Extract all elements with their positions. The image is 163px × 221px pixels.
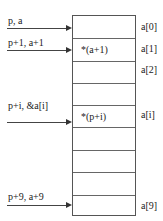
index-label-ai: a[i]	[141, 109, 155, 120]
array-cell-3	[73, 83, 135, 105]
array-cell-1: *(a+1)	[73, 38, 135, 61]
pointer-arrow-pi	[7, 122, 67, 123]
pointer-label-p9: p+9, a+9	[8, 191, 44, 202]
pointer-arrow-p1	[7, 50, 67, 51]
index-label-a0: a[0]	[141, 21, 157, 32]
pointer-label-p: p, a	[8, 15, 22, 26]
cell-content: *(a+1)	[81, 44, 108, 55]
pointer-arrow-p9	[7, 205, 67, 206]
array-cell-i: *(p+i)	[73, 105, 135, 127]
pointer-label-p1: p+1, a+1	[8, 37, 44, 48]
pointer-arrow-p	[7, 28, 67, 29]
index-label-a9: a[9]	[141, 200, 157, 211]
array-cell-7	[73, 172, 135, 195]
index-label-a1: a[1]	[141, 43, 157, 54]
cell-content: *(p+i)	[81, 111, 106, 122]
array-cell-0	[73, 16, 135, 38]
pointer-label-pi: p+i, &a[i]	[8, 100, 48, 111]
array-cell-2	[73, 61, 135, 83]
array-cell-6	[73, 150, 135, 172]
array-cell-5	[73, 127, 135, 150]
index-label-a2: a[2]	[141, 64, 157, 75]
array-memory-block: *(a+1) *(p+i)	[72, 15, 136, 216]
array-cell-9	[73, 195, 135, 217]
